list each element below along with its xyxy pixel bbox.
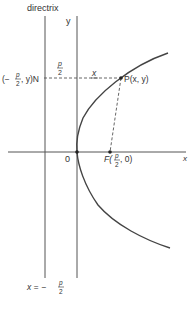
directrix-label: directrix [27, 3, 59, 13]
x-axis-label: x [182, 154, 188, 163]
focus-2: 2 [115, 161, 119, 168]
origin-label: 0 [65, 154, 70, 164]
pf-dashed-segment [110, 78, 121, 152]
point-n-suffix: , y)N [21, 74, 39, 84]
point-p-label: P(x, y) [124, 74, 149, 84]
point-n-2: 2 [16, 80, 20, 87]
point-p [119, 76, 123, 80]
origin-point [75, 150, 79, 154]
point-n-p: p [15, 71, 20, 79]
p-half-num: p [57, 60, 62, 68]
point-n-prefix: (− [2, 74, 10, 84]
focus-p: p [114, 152, 119, 160]
directrix-eq-2: 2 [59, 288, 63, 295]
p-half-den: 2 [58, 69, 62, 76]
parabola-diagram: directrix y x 0 (− p 2 , y)N p 2 x P(x, … [0, 0, 192, 309]
focus-prefix: F( [104, 154, 113, 164]
directrix-eq-p: p [58, 279, 63, 287]
directrix-equation-prefix: x = − [26, 282, 46, 292]
focus-suffix: , 0) [120, 154, 132, 164]
y-axis-label: y [66, 16, 71, 26]
segment-x-label: x [91, 68, 97, 78]
